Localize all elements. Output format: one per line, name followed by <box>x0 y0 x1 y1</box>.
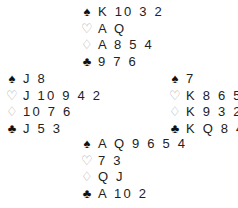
east-spades-cards: 7 <box>186 71 195 88</box>
north-diamonds-cards: A 8 5 4 <box>98 37 154 54</box>
west-hand: ♠ J 8 ♡ J 10 9 4 2 ♢ 10 7 6 ♣ J 5 3 <box>5 71 102 137</box>
south-diamonds-cards: Q J <box>98 169 125 186</box>
south-diamonds-row: ♢ Q J <box>80 169 187 186</box>
east-clubs-cards: K Q 8 4 <box>186 121 238 138</box>
west-diamonds-cards: 10 7 6 <box>23 104 72 121</box>
spade-icon: ♠ <box>5 71 19 88</box>
heart-icon: ♡ <box>80 21 94 38</box>
spade-icon: ♠ <box>80 4 94 21</box>
east-diamonds-cards: K 9 3 2 <box>186 104 238 121</box>
north-hearts-cards: A Q <box>98 21 126 38</box>
diamond-icon: ♢ <box>168 104 182 121</box>
east-hand: ♠ 7 ♡ K 8 6 5 ♢ K 9 3 2 ♣ K Q 8 4 <box>168 71 238 137</box>
east-clubs-row: ♣ K Q 8 4 <box>168 121 238 138</box>
north-hearts-row: ♡ A Q <box>80 21 164 38</box>
club-icon: ♣ <box>5 121 19 138</box>
diamond-icon: ♢ <box>80 169 94 186</box>
south-clubs-cards: A 10 2 <box>98 186 148 203</box>
south-clubs-row: ♣ A 10 2 <box>80 186 187 203</box>
west-diamonds-row: ♢ 10 7 6 <box>5 104 102 121</box>
north-hand: ♠ K 10 3 2 ♡ A Q ♢ A 8 5 4 ♣ 9 7 6 <box>80 4 164 70</box>
spade-icon: ♠ <box>80 136 94 153</box>
heart-icon: ♡ <box>80 153 94 170</box>
west-clubs-cards: J 5 3 <box>23 121 62 138</box>
club-icon: ♣ <box>168 121 182 138</box>
west-hearts-cards: J 10 9 4 2 <box>23 88 102 105</box>
south-hearts-row: ♡ 7 3 <box>80 153 187 170</box>
west-spades-row: ♠ J 8 <box>5 71 102 88</box>
south-hand: ♠ A Q 9 6 5 4 ♡ 7 3 ♢ Q J ♣ A 10 2 <box>80 136 187 202</box>
club-icon: ♣ <box>80 186 94 203</box>
north-clubs-cards: 9 7 6 <box>98 54 138 71</box>
north-clubs-row: ♣ 9 7 6 <box>80 54 164 71</box>
east-spades-row: ♠ 7 <box>168 71 238 88</box>
heart-icon: ♡ <box>168 88 182 105</box>
club-icon: ♣ <box>80 54 94 71</box>
east-diamonds-row: ♢ K 9 3 2 <box>168 104 238 121</box>
west-clubs-row: ♣ J 5 3 <box>5 121 102 138</box>
north-spades-cards: K 10 3 2 <box>98 4 164 21</box>
diamond-icon: ♢ <box>5 104 19 121</box>
south-hearts-cards: 7 3 <box>98 153 123 170</box>
east-hearts-row: ♡ K 8 6 5 <box>168 88 238 105</box>
north-spades-row: ♠ K 10 3 2 <box>80 4 164 21</box>
east-hearts-cards: K 8 6 5 <box>186 88 238 105</box>
spade-icon: ♠ <box>168 71 182 88</box>
north-diamonds-row: ♢ A 8 5 4 <box>80 37 164 54</box>
west-spades-cards: J 8 <box>23 71 47 88</box>
south-spades-row: ♠ A Q 9 6 5 4 <box>80 136 187 153</box>
south-spades-cards: A Q 9 6 5 4 <box>98 136 187 153</box>
diamond-icon: ♢ <box>80 37 94 54</box>
heart-icon: ♡ <box>5 88 19 105</box>
west-hearts-row: ♡ J 10 9 4 2 <box>5 88 102 105</box>
